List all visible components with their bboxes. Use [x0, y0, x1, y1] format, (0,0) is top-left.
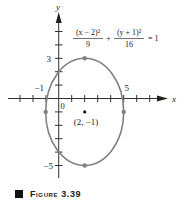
equation-equals: = 1: [148, 34, 159, 43]
equation-term2-denominator: 16: [125, 40, 133, 49]
equation-plus: +: [106, 34, 111, 43]
equation-term1-denominator: 9: [86, 40, 90, 49]
figure-caption: Figure 3.39: [15, 188, 81, 200]
caption-label: Figure 3.39: [30, 189, 81, 199]
left-vertex: [44, 110, 48, 114]
bottom-vertex: [83, 163, 87, 167]
right-vertex: [122, 110, 126, 114]
y-tick-label-3: 3: [47, 54, 52, 64]
y-tick-label-neg5: −5: [43, 161, 53, 171]
top-vertex: [83, 56, 87, 60]
equation-term2-numerator: (y + 1)²: [117, 28, 142, 37]
center-point: [83, 110, 86, 113]
caption-square-icon: [15, 190, 23, 198]
x-axis-label: x: [171, 94, 176, 104]
equation-term1-numerator: (x − 2)²: [76, 28, 101, 37]
x-tick-label-5: 5: [125, 83, 130, 93]
ellipse-figure: y x 3 −5 −1 0 5 (2, −1) (x − 2)² 9 + (y …: [0, 0, 182, 200]
ellipse-equation: (x − 2)² 9 + (y + 1)² 16 = 1: [73, 28, 159, 49]
x-tick-label-neg1: −1: [34, 83, 44, 93]
ellipse-plot: y x 3 −5 −1 0 5 (2, −1) (x − 2)² 9 + (y …: [0, 0, 182, 200]
y-axis-label: y: [55, 2, 60, 12]
x-tick-label-0: 0: [61, 101, 65, 111]
center-label: (2, −1): [74, 117, 99, 127]
y-axis-arrow-icon: [56, 12, 62, 23]
x-axis-arrow-icon: [157, 96, 168, 102]
